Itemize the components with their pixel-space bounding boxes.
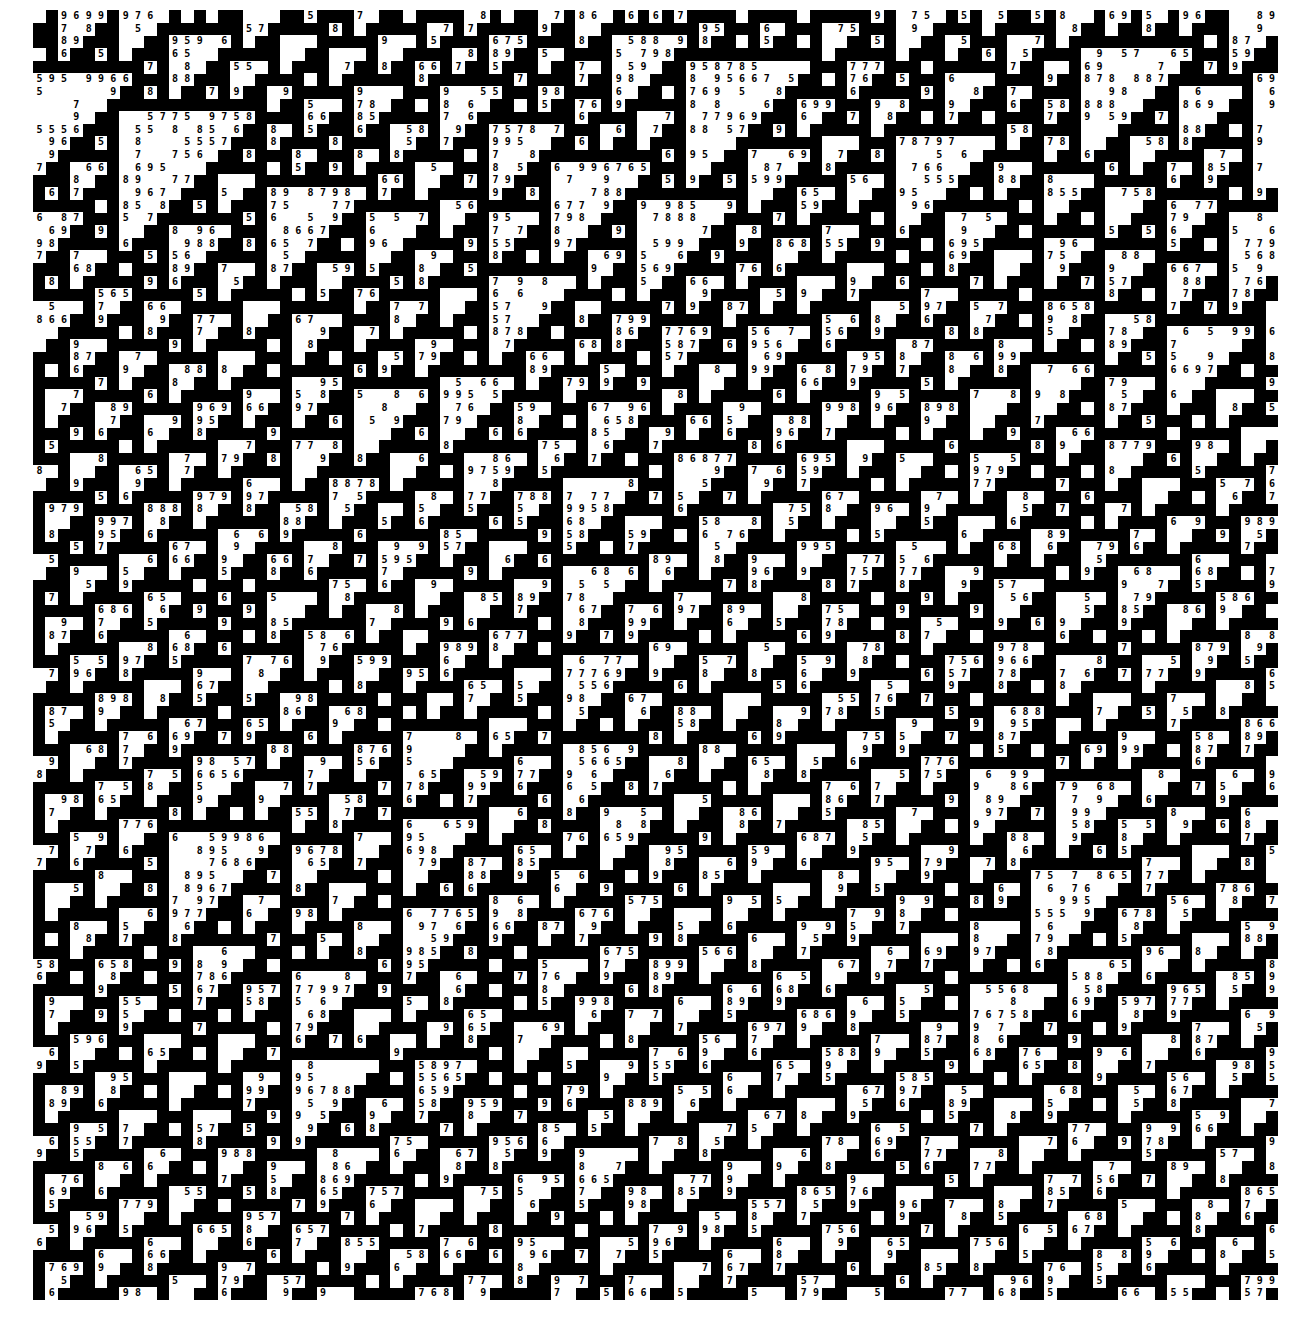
white-cell: 7	[354, 478, 367, 491]
white-cell	[58, 1009, 71, 1022]
white-cell: 8	[834, 1136, 847, 1149]
white-cell: 6	[748, 933, 761, 946]
white-cell: 7	[218, 883, 231, 896]
white-cell	[1118, 1161, 1131, 1174]
white-cell: 7	[304, 554, 317, 567]
white-cell	[748, 1072, 761, 1085]
white-cell	[1167, 744, 1180, 757]
white-cell	[1155, 1034, 1168, 1047]
white-cell: 8	[575, 744, 588, 757]
white-cell	[1167, 288, 1180, 301]
white-cell	[230, 870, 243, 883]
white-cell: 8	[970, 921, 983, 934]
white-cell	[193, 832, 206, 845]
white-cell: 5	[748, 1287, 761, 1300]
white-cell	[230, 364, 243, 377]
white-cell	[292, 1098, 305, 1111]
white-cell	[255, 389, 268, 402]
white-cell	[711, 1123, 724, 1136]
white-cell	[317, 1148, 330, 1161]
white-cell	[945, 149, 958, 162]
white-cell	[403, 680, 416, 693]
white-cell	[70, 933, 83, 946]
white-cell	[206, 668, 219, 681]
white-cell: 9	[1266, 579, 1279, 592]
white-cell: 8	[945, 263, 958, 276]
white-cell: 7	[551, 212, 564, 225]
white-cell	[674, 1110, 687, 1123]
white-cell: 9	[662, 554, 675, 567]
white-cell	[526, 579, 539, 592]
white-cell	[526, 756, 539, 769]
white-cell: 8	[378, 402, 391, 415]
white-cell	[329, 1072, 342, 1085]
white-cell: 5	[933, 769, 946, 782]
white-cell: 9	[1118, 744, 1131, 757]
white-cell	[822, 693, 835, 706]
white-cell: 7	[403, 971, 416, 984]
white-cell: 5	[243, 1123, 256, 1136]
white-cell	[563, 276, 576, 289]
white-cell: 5	[243, 212, 256, 225]
white-cell: 6	[945, 250, 958, 263]
white-cell	[193, 1072, 206, 1085]
white-cell: 7	[440, 136, 453, 149]
white-cell: 5	[1044, 1224, 1057, 1237]
white-cell	[464, 288, 477, 301]
white-cell: 8	[797, 769, 810, 782]
white-cell	[600, 1262, 613, 1275]
white-cell	[169, 61, 182, 74]
white-cell	[1179, 807, 1192, 820]
white-cell	[637, 288, 650, 301]
white-cell	[994, 996, 1007, 1009]
white-cell	[119, 225, 132, 238]
white-cell	[785, 971, 798, 984]
white-cell: 5	[169, 655, 182, 668]
white-cell	[243, 541, 256, 554]
white-cell	[723, 99, 736, 112]
white-cell: 7	[181, 541, 194, 554]
white-cell	[970, 149, 983, 162]
white-cell	[193, 516, 206, 529]
white-cell: 7	[649, 212, 662, 225]
white-cell: 8	[267, 124, 280, 137]
white-cell	[366, 1022, 379, 1035]
white-cell: 5	[1118, 1199, 1131, 1212]
white-cell: 7	[1081, 276, 1094, 289]
white-cell: 7	[982, 946, 995, 959]
white-cell: 7	[773, 162, 786, 175]
white-cell	[945, 1249, 958, 1262]
white-cell: 9	[859, 744, 872, 757]
white-cell: 5	[341, 794, 354, 807]
white-cell: 6	[304, 1085, 317, 1098]
white-cell: 7	[132, 149, 145, 162]
white-cell	[810, 1098, 823, 1111]
white-cell: 8	[970, 1034, 983, 1047]
white-cell: 5	[1031, 908, 1044, 921]
white-cell: 6	[501, 453, 514, 466]
white-cell: 6	[95, 1034, 108, 1047]
white-cell	[452, 99, 465, 112]
white-cell: 7	[662, 326, 675, 339]
white-cell	[58, 86, 71, 99]
white-cell: 9	[1241, 48, 1254, 61]
white-cell: 5	[1093, 1262, 1106, 1275]
white-cell: 8	[514, 592, 527, 605]
white-cell	[847, 187, 860, 200]
white-cell: 7	[970, 1123, 983, 1136]
white-cell	[662, 364, 675, 377]
white-cell: 5	[699, 794, 712, 807]
white-cell	[292, 1060, 305, 1073]
white-cell: 9	[230, 541, 243, 554]
white-cell	[58, 516, 71, 529]
white-cell: 7	[58, 23, 71, 36]
white-cell: 6	[994, 1034, 1007, 1047]
white-cell	[797, 1034, 810, 1047]
white-cell	[1007, 503, 1020, 516]
white-cell: 6	[1216, 819, 1229, 832]
white-cell: 5	[1142, 1237, 1155, 1250]
white-cell	[921, 263, 934, 276]
white-cell	[625, 819, 638, 832]
white-cell: 8	[267, 187, 280, 200]
white-cell: 6	[1241, 807, 1254, 820]
